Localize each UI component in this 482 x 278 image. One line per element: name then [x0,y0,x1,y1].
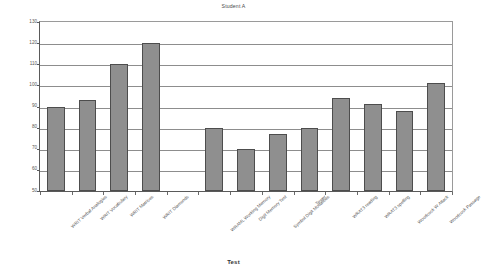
bar [110,64,128,191]
x-axis-category-label: WRAT3 reading [352,195,379,220]
x-axis-labels: WRIT Verbal AnalogiesWRIT VocabularyWRIT… [0,192,467,254]
y-axis-tick-label: 130 [17,20,37,25]
bar [364,104,382,191]
bar [396,111,414,191]
y-axis-tick-label: 60 [17,167,37,172]
bar [142,43,160,191]
x-axis-category-label: Woodcock W Attack [418,195,451,225]
x-axis-category-label: WRAT3 spelling [384,195,411,220]
y-axis-tick-label: 70 [17,146,37,151]
bar [205,128,223,191]
bar [237,149,255,191]
x-axis-category-label: WRIT Diamonds [162,195,189,220]
x-axis-category-label: Woodcock Passage [449,195,482,225]
bar [427,83,445,191]
y-axis-tick-label: 120 [17,41,37,46]
bar [47,107,65,192]
bar [332,98,350,191]
chart-title: Student A [0,3,467,9]
y-axis-tick-label: 110 [17,62,37,67]
bar [79,100,97,191]
x-axis-category-label: WRIT Matrices [130,195,155,218]
y-axis-tick-label: 80 [17,125,37,130]
x-axis-title: Test [0,259,467,265]
x-axis-category-label: WRIT Verbal Analogies [71,195,108,229]
y-axis-tick-label: 100 [17,83,37,88]
bar [269,134,287,191]
y-axis: 5060708090100110120130 [13,21,37,192]
bars-layer [40,22,452,191]
bar [301,128,319,191]
y-axis-tick-label: 90 [17,104,37,109]
